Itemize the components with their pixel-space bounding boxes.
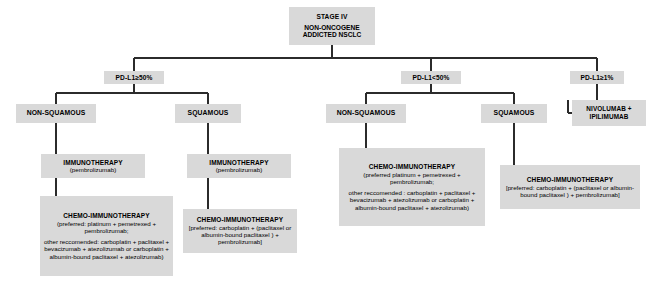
pdl1-lt-50-label: PD-L1<50% [413,74,450,82]
node-pdl1-lt-50: PD-L1<50% [401,71,461,84]
node-squamous-high: SQUAMOUS [175,104,241,123]
node-stage-iv-root: STAGE IV NON-ONCOGENE ADDICTED NSCLC [289,7,375,45]
non-squamous-low-label: NON-SQUAMOUS [337,109,396,117]
nivo-ipi-line-1: NIVOLUMAB + [586,105,631,113]
node-non-squamous-high: NON-SQUAMOUS [16,104,96,123]
root-line-1: STAGE IV [316,13,347,21]
t2-title: CHEMO-IMMUNOTHERAPY [63,212,149,220]
t3-detail: (pembrolizumab) [216,166,262,173]
t5-title: CHEMO-IMMUNOTHERAPY [369,163,455,171]
node-treatment-immunotherapy-nonsq-high: IMMUNOTHERAPY (pembrolizumab) [41,154,145,178]
node-treatment-chemoimmuno-sq-high: CHEMO-IMMUNOTHERAPY [preferred: carbopla… [183,209,297,253]
node-non-squamous-low: NON-SQUAMOUS [326,104,406,123]
squamous-low-label: SQUAMOUS [494,109,535,117]
treatment-algorithm-flowchart: STAGE IV NON-ONCOGENE ADDICTED NSCLC PD-… [0,0,656,295]
t2-detail-preferred: (preferred: platinum + pemetrexed + pemb… [43,220,170,235]
squamous-high-label: SQUAMOUS [188,109,229,117]
t3-title: IMMUNOTHERAPY [209,159,268,167]
t6-detail: [preferred: carboplatin + (paclitaxel or… [503,184,637,199]
t1-title: IMMUNOTHERAPY [63,159,122,167]
pdl1-ge-1-label: PD-L1≥1% [581,74,614,82]
nivo-ipi-line-2: IPILIMUMAB [590,113,629,121]
root-line-3: ADDICTED NSCLC [303,31,362,39]
t1-detail: (pembrolizumab) [70,166,116,173]
node-treatment-chemoimmuno-nonsq-high: CHEMO-IMMUNOTHERAPY (preferred: platinum… [40,196,173,276]
node-squamous-low: SQUAMOUS [481,104,547,123]
root-line-2: NON-ONCOGENE [304,24,359,32]
t5-detail-other: other reccomended : carboplatin + paclit… [342,189,482,211]
non-squamous-high-label: NON-SQUAMOUS [27,109,86,117]
pdl1-ge-50-label: PD-L1≥50% [116,74,153,82]
node-treatment-chemoimmuno-sq-low: CHEMO-IMMUNOTHERAPY [preferred: carbopla… [500,165,640,209]
t5-detail-preferred: (preferred platinum + pemetrexed + pembr… [342,171,482,186]
t2-detail-other: other reccomended: carboplatin + paclita… [43,238,170,260]
node-treatment-immunotherapy-sq-high: IMMUNOTHERAPY (pembrolizumab) [187,154,291,178]
node-pdl1-ge-50: PD-L1≥50% [104,71,164,84]
t4-title: CHEMO-IMMUNOTHERAPY [197,216,283,224]
node-nivolumab-ipilimumab: NIVOLUMAB + IPILIMUMAB [572,100,646,126]
node-pdl1-ge-1: PD-L1≥1% [570,71,624,84]
node-treatment-chemoimmuno-nonsq-low: CHEMO-IMMUNOTHERAPY (preferred platinum … [339,148,485,226]
t4-detail: [preferred: carboplatin + (paclitaxel or… [186,224,294,246]
t6-title: CHEMO-IMMUNOTHERAPY [527,176,613,184]
